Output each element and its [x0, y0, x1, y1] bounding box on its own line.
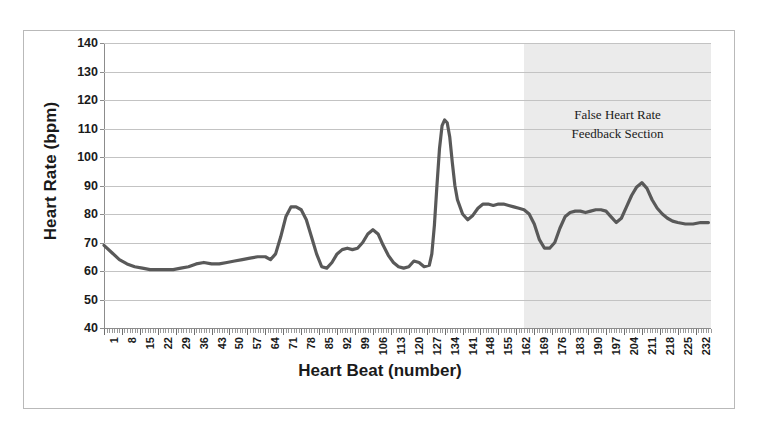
x-tick-mark [148, 329, 149, 333]
x-tick-mark [104, 329, 105, 335]
x-tick-mark [124, 329, 125, 333]
plot-area: 140130120110100908070605040 181522293643… [104, 43, 711, 328]
x-tick-mark [506, 329, 507, 333]
x-tick-mark [498, 329, 499, 335]
x-tick-mark [352, 329, 353, 333]
x-tick-label: 148 [484, 337, 496, 355]
x-tick-mark [470, 329, 471, 333]
x-tick-mark [250, 329, 251, 333]
x-tick-mark [601, 329, 602, 333]
x-tick-mark [521, 329, 522, 333]
annotation-line-1: False Heart Rate [543, 106, 693, 125]
x-tick-mark [463, 329, 464, 335]
x-tick-mark [560, 329, 561, 333]
x-tick-mark [199, 329, 200, 333]
x-tick-mark [165, 329, 166, 333]
x-tick-mark [201, 329, 202, 333]
x-tick-mark [142, 329, 143, 333]
x-tick-mark [440, 329, 441, 333]
x-tick-mark [299, 329, 300, 333]
x-tick-mark [688, 329, 689, 333]
x-tick-mark [667, 329, 668, 333]
y-tick-label: 40 [28, 321, 98, 335]
y-tick-label: 140 [28, 36, 98, 50]
false-feedback-annotation: False Heart Rate Feedback Section [543, 106, 693, 144]
x-tick-mark [568, 329, 569, 333]
x-tick-label: 106 [377, 337, 389, 355]
x-tick-mark [691, 329, 692, 333]
x-tick-mark [583, 329, 584, 333]
x-tick-mark [501, 329, 502, 333]
x-tick-mark [457, 329, 458, 333]
x-tick-mark [460, 329, 461, 333]
x-tick-mark [621, 329, 622, 333]
x-tick-mark [596, 329, 597, 333]
x-tick-mark [173, 329, 174, 333]
x-tick-mark [545, 329, 546, 333]
x-tick-mark [189, 329, 190, 333]
x-tick-mark [655, 329, 656, 333]
x-tick-mark [388, 329, 389, 333]
x-tick-mark [386, 329, 387, 333]
x-tick-label: 176 [556, 337, 568, 355]
x-tick-mark [662, 329, 663, 333]
x-tick-label: 57 [251, 337, 263, 349]
x-tick-label: 183 [574, 337, 586, 355]
x-tick-mark [455, 329, 456, 333]
x-tick-mark [683, 329, 684, 333]
x-tick-mark [557, 329, 558, 333]
x-tick-mark [224, 329, 225, 333]
x-tick-mark [580, 329, 581, 333]
x-tick-mark [437, 329, 438, 333]
annotation-line-2: Feedback Section [543, 125, 693, 144]
heart-rate-series [104, 43, 711, 328]
x-tick-mark [135, 329, 136, 333]
x-tick-mark [345, 329, 346, 333]
x-tick-mark [414, 329, 415, 333]
x-tick-mark [478, 329, 479, 333]
x-tick-mark [360, 329, 361, 333]
x-tick-mark [537, 329, 538, 333]
x-tick-mark [375, 329, 376, 333]
x-tick-mark [586, 329, 587, 333]
x-tick-mark [555, 329, 556, 333]
x-tick-mark [247, 329, 248, 335]
x-tick-mark [273, 329, 274, 333]
x-tick-mark [673, 329, 674, 333]
x-tick-mark [306, 329, 307, 333]
x-tick-mark [283, 329, 284, 335]
x-tick-mark [603, 329, 604, 333]
x-tick-mark [511, 329, 512, 333]
x-tick-mark [547, 329, 548, 333]
x-tick-mark [416, 329, 417, 333]
x-tick-mark [680, 329, 681, 333]
x-tick-mark [685, 329, 686, 333]
x-tick-mark [637, 329, 638, 333]
x-tick-mark [552, 329, 553, 335]
x-tick-mark [424, 329, 425, 333]
x-tick-mark [260, 329, 261, 333]
y-tick-label: 60 [28, 264, 98, 278]
x-tick-mark [347, 329, 348, 333]
x-tick-mark [647, 329, 648, 333]
x-tick-mark [519, 329, 520, 333]
x-tick-mark [276, 329, 277, 333]
y-tick-label: 100 [28, 150, 98, 164]
x-tick-mark [698, 329, 699, 333]
x-tick-mark [119, 329, 120, 333]
x-tick-mark [227, 329, 228, 333]
x-tick-mark [591, 329, 592, 333]
x-tick-label: 71 [287, 337, 299, 349]
x-tick-mark [204, 329, 205, 333]
x-tick-mark [232, 329, 233, 333]
x-tick-mark [363, 329, 364, 333]
x-tick-mark [278, 329, 279, 333]
x-tick-mark [350, 329, 351, 333]
x-tick-label: 197 [610, 337, 622, 355]
x-tick-label: 29 [180, 337, 192, 349]
x-tick-mark [404, 329, 405, 333]
x-tick-mark [219, 329, 220, 333]
x-tick-mark [429, 329, 430, 333]
x-tick-label: 169 [538, 337, 550, 355]
x-tick-mark [270, 329, 271, 333]
